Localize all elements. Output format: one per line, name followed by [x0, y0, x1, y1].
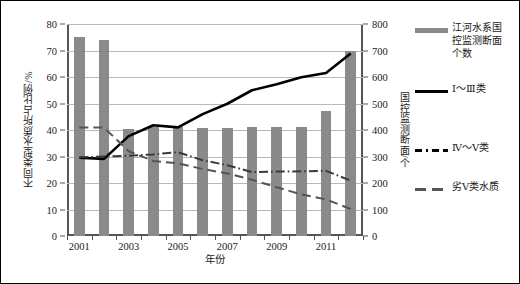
y-axis-primary-ticks: 01020304050607080 — [1, 24, 65, 236]
x-axis-ticks: 200120032005200720092011 — [67, 236, 363, 252]
y-axis-primary-tick-label: 60 — [47, 72, 58, 83]
chart-figure: 不同类型水质所占比例/% 01020304050607080 010020030… — [0, 0, 520, 284]
legend-dashed-line-icon — [415, 188, 448, 191]
x-axis-tick-mark — [240, 236, 241, 240]
y-axis-secondary-tick-label: 800 — [372, 19, 388, 30]
y-axis-secondary-tick-mark — [363, 77, 368, 78]
x-axis-tick-mark — [314, 236, 315, 240]
legend-label: Ⅰ～Ⅲ类 — [452, 82, 486, 95]
y-axis-secondary-tick-label: 300 — [372, 151, 388, 162]
y-axis-secondary-tick-mark — [363, 130, 368, 131]
y-axis-secondary-tick-mark — [363, 103, 368, 104]
legend-solid-line-icon — [415, 90, 448, 93]
y-axis-primary-tick-mark — [60, 50, 65, 51]
x-axis-tick-mark — [92, 236, 93, 240]
legend-key — [415, 144, 449, 156]
x-axis-title: 年份 — [67, 251, 363, 266]
x-axis-tick-mark — [215, 236, 216, 240]
y-axis-primary-tick-label: 0 — [52, 231, 57, 242]
legend-key — [415, 24, 449, 36]
x-axis-tick-mark — [264, 236, 265, 240]
y-axis-primary-tick-mark — [60, 156, 65, 157]
x-axis-tick-mark — [190, 236, 191, 240]
x-axis-tick-mark — [289, 236, 290, 240]
legend-item[interactable]: 江河水系国 控监测断面 个数 — [415, 21, 517, 60]
x-axis-tick-mark — [116, 236, 117, 240]
legend-item[interactable]: Ⅰ～Ⅲ类 — [415, 82, 517, 97]
line-series — [67, 24, 363, 236]
y-axis-primary-tick-label: 70 — [47, 45, 58, 56]
y-axis-secondary-title-text: 国控监测断面/个 — [397, 92, 412, 169]
y-axis-primary-tick-mark — [60, 183, 65, 184]
legend-label: Ⅳ～Ⅴ类 — [452, 141, 489, 154]
y-axis-primary-tick-mark — [60, 236, 65, 237]
y-axis-primary-tick-mark — [60, 209, 65, 210]
y-axis-primary-tick-label: 40 — [47, 125, 58, 136]
y-axis-secondary-tick-label: 600 — [372, 72, 388, 83]
legend-label: 江河水系国 控监测断面 个数 — [452, 21, 502, 60]
x-axis-tick-mark — [166, 236, 167, 240]
y-axis-primary-tick-mark — [60, 130, 65, 131]
x-axis-tick-mark — [338, 236, 339, 240]
y-axis-primary-tick-label: 50 — [47, 98, 58, 109]
x-axis-tick-mark — [363, 236, 364, 240]
y-axis-secondary-title: 国控监测断面/个 — [397, 24, 411, 236]
legend-bar-swatch-icon — [415, 28, 448, 33]
legend-item[interactable]: Ⅳ～Ⅴ类 — [415, 141, 517, 156]
y-axis-primary-tick-label: 10 — [47, 204, 58, 215]
x-axis-tick-mark — [141, 236, 142, 240]
y-axis-primary-tick-label: 20 — [47, 178, 58, 189]
y-axis-secondary-tick-label: 0 — [372, 231, 377, 242]
legend-key — [415, 85, 449, 97]
y-axis-secondary-tick-mark — [363, 156, 368, 157]
y-axis-secondary-tick-label: 400 — [372, 125, 388, 136]
y-axis-primary-tick-label: 80 — [47, 19, 58, 30]
y-axis-secondary-tick-label: 500 — [372, 98, 388, 109]
legend-key — [415, 183, 449, 195]
y-axis-secondary-tick-mark — [363, 209, 368, 210]
y-axis-secondary-tick-label: 700 — [372, 45, 388, 56]
series-line — [79, 152, 350, 180]
legend-label: 劣Ⅴ类水质 — [452, 180, 499, 193]
y-axis-secondary-tick-mark — [363, 24, 368, 25]
series-line — [79, 128, 350, 209]
y-axis-secondary-tick-mark — [363, 183, 368, 184]
y-axis-primary-tick-mark — [60, 103, 65, 104]
y-axis-secondary-tick-label: 100 — [372, 204, 388, 215]
plot-area — [67, 24, 363, 236]
y-axis-primary-tick-mark — [60, 77, 65, 78]
x-axis-tick-mark — [67, 236, 68, 240]
y-axis-primary-tick-label: 30 — [47, 151, 58, 162]
legend-dash-dot-line-icon — [415, 149, 448, 152]
y-axis-primary-tick-mark — [60, 24, 65, 25]
y-axis-secondary-tick-label: 200 — [372, 178, 388, 189]
legend-item[interactable]: 劣Ⅴ类水质 — [415, 180, 517, 195]
y-axis-secondary-tick-mark — [363, 50, 368, 51]
chart-legend: 江河水系国 控监测断面 个数Ⅰ～Ⅲ类Ⅳ～Ⅴ类劣Ⅴ类水质 — [415, 21, 517, 197]
